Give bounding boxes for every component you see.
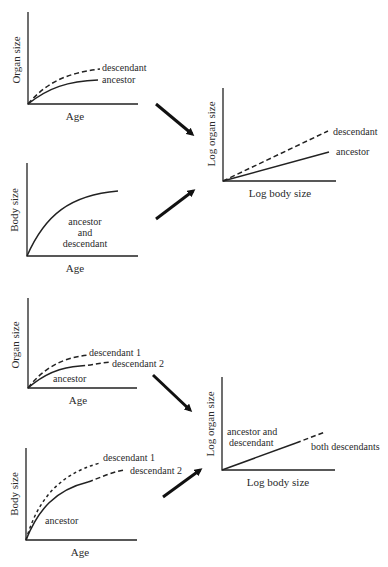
- y-axis-label: Organ size: [10, 36, 22, 83]
- allometry-diagram: descendant ancestor Age Organ size desce…: [0, 0, 388, 567]
- descendant-1-label: descendant 1: [103, 452, 155, 463]
- curve-label-line1: ancestor: [68, 216, 102, 227]
- panel-organ-age-1: descendant ancestor Age Organ size: [10, 12, 147, 122]
- panel-body-age-1: ancestor and descendant Age Body size: [8, 163, 138, 274]
- ancestor-label: ancestor: [45, 515, 79, 526]
- ancestor-label: ancestor: [53, 373, 87, 384]
- y-axis-label: Body size: [8, 188, 20, 232]
- y-axis: [28, 12, 138, 104]
- y-axis-label: Log organ size: [205, 101, 217, 166]
- arrow-up-right-1: [156, 191, 193, 219]
- descendant-2-label: descendant 2: [130, 465, 182, 476]
- panel-log-1: descendant ancestor Log body size Log or…: [205, 88, 378, 199]
- descendant-curve: [28, 69, 100, 104]
- ancestor-descendant-label-line2: descendant: [229, 437, 274, 448]
- x-axis-label: Log body size: [249, 187, 311, 199]
- ancestor-descendant-label-line1: ancestor and: [227, 426, 277, 437]
- curve-label-line3: descendant: [63, 238, 108, 249]
- x-axis-label: Log body size: [247, 476, 309, 488]
- ancestor-label: ancestor: [102, 74, 136, 85]
- arrow-down-right-2: [153, 375, 190, 410]
- arrow-down-right-1: [156, 104, 192, 134]
- x-axis-label: Age: [66, 262, 84, 274]
- descendant-1-curve: [26, 463, 100, 540]
- y-axis-label: Body size: [8, 472, 20, 516]
- ancestor-curve: [28, 80, 98, 104]
- panel-body-age-2: descendant 1 descendant 2 ancestor Age B…: [8, 448, 182, 558]
- curve-label-line2: and: [78, 227, 92, 238]
- descendant-2-label: descendant 2: [112, 358, 164, 369]
- x-axis-label: Age: [66, 110, 84, 122]
- descendant-label: descendant: [333, 126, 378, 137]
- y-axis-label: Log organ size: [204, 391, 216, 456]
- ancestor-label: ancestor: [336, 146, 370, 157]
- both-descendants-label: both descendants: [311, 441, 380, 452]
- x-axis-label: Age: [71, 546, 89, 558]
- ancestor-curve: [26, 482, 88, 540]
- x-axis-label: Age: [69, 394, 87, 406]
- y-axis-label: Organ size: [9, 321, 21, 368]
- descendant-1-label: descendant 1: [89, 347, 141, 358]
- axes: [222, 377, 335, 470]
- panel-log-2: ancestor and descendant both descendants…: [204, 377, 380, 488]
- descendant-2-curve: [80, 362, 110, 366]
- descendant-label: descendant: [102, 62, 147, 73]
- descendant-2-curve: [88, 470, 124, 482]
- panel-organ-age-2: descendant 1 descendant 2 ancestor Age O…: [9, 298, 164, 406]
